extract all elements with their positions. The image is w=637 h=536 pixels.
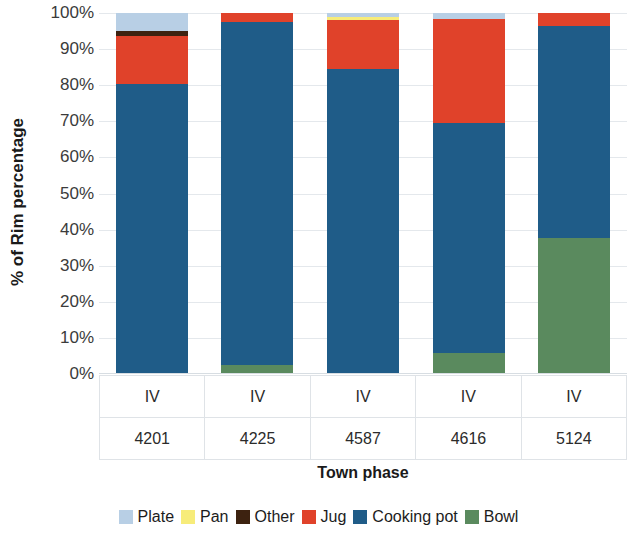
bars-layer [99,13,627,374]
y-axis-tick-label: 60% [36,147,94,167]
bar-stack[interactable] [433,13,505,374]
y-axis-tick-label: 40% [36,220,94,240]
legend-item[interactable]: Jug [302,508,347,526]
y-axis-tick-label: 10% [36,328,94,348]
legend-item[interactable]: Bowl [465,508,519,526]
legend-label: Bowl [484,508,519,526]
bar-stack[interactable] [327,13,399,374]
category-column: IV4587 [310,375,415,460]
category-code-label: 5124 [522,418,626,460]
category-column: IV4616 [415,375,520,460]
category-phase-label: IV [416,375,520,418]
y-axis-tick-label: 80% [36,75,94,95]
legend-label: Pan [200,508,228,526]
category-code-label: 4587 [311,418,415,460]
bar-segment[interactable] [327,20,399,69]
legend-item[interactable]: Cooking pot [353,508,457,526]
y-axis-tick-label: 20% [36,292,94,312]
category-phase-label: IV [205,375,309,418]
legend-item[interactable]: Pan [181,508,228,526]
y-axis-title: % of Rim percentage [8,52,28,352]
category-code-label: 4201 [100,418,204,460]
legend-swatch-icon [353,510,367,524]
bar-slot [521,13,627,374]
legend-item[interactable]: Plate [119,508,174,526]
category-phase-label: IV [522,375,626,418]
legend-swatch-icon [181,510,195,524]
bar-segment[interactable] [221,13,293,22]
category-column: IV5124 [521,375,627,460]
bar-segment[interactable] [433,19,505,123]
stacked-bar-chart: % of Rim percentage 0%10%20%30%40%50%60%… [0,0,637,536]
axis-baseline [99,373,627,374]
bar-segment[interactable] [538,13,610,26]
legend-label: Jug [321,508,347,526]
bar-segment[interactable] [116,36,188,84]
category-axis: IV4201IV4225IV4587IV4616IV5124 [99,375,627,460]
chart-legend: PlatePanOtherJugCooking potBowl [0,508,637,526]
bar-stack[interactable] [538,13,610,374]
legend-swatch-icon [302,510,316,524]
legend-swatch-icon [465,510,479,524]
legend-label: Plate [138,508,174,526]
bar-segment[interactable] [433,353,505,374]
y-axis-tick-label: 100% [36,3,94,23]
category-column: IV4201 [99,375,204,460]
legend-swatch-icon [236,510,250,524]
bar-segment[interactable] [433,123,505,353]
bar-slot [310,13,416,374]
legend-item[interactable]: Other [236,508,295,526]
bar-stack[interactable] [116,13,188,374]
y-axis-tick-label: 30% [36,256,94,276]
bar-slot [99,13,205,374]
category-column: IV4225 [204,375,309,460]
bar-segment[interactable] [221,22,293,365]
category-phase-label: IV [311,375,415,418]
bar-segment[interactable] [538,26,610,238]
bar-slot [416,13,522,374]
plot-area [99,13,627,374]
bar-segment[interactable] [538,238,610,374]
y-axis-tick-labels: 0%10%20%30%40%50%60%70%80%90%100% [36,13,94,374]
bar-segment[interactable] [116,84,188,374]
y-axis-tick-label: 90% [36,39,94,59]
y-axis-tick-label: 70% [36,111,94,131]
y-axis-tick-label: 0% [36,364,94,384]
category-code-label: 4225 [205,418,309,460]
legend-label: Other [255,508,295,526]
y-axis-tick-label: 50% [36,184,94,204]
x-axis-title: Town phase [99,464,627,482]
category-phase-label: IV [100,375,204,418]
bar-segment[interactable] [116,13,188,31]
bar-segment[interactable] [327,69,399,374]
legend-label: Cooking pot [372,508,457,526]
category-code-label: 4616 [416,418,520,460]
bar-slot [205,13,311,374]
bar-stack[interactable] [221,13,293,374]
legend-swatch-icon [119,510,133,524]
